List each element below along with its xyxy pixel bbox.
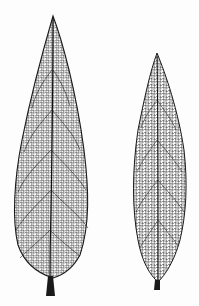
left-leaf-blade bbox=[15, 16, 88, 278]
left-leaf-petiole bbox=[46, 276, 55, 296]
right-leaf-petiole bbox=[154, 280, 160, 290]
left-leaf bbox=[15, 16, 88, 296]
right-leaf bbox=[134, 53, 187, 290]
leaves-drawing bbox=[0, 0, 199, 306]
right-leaf-blade bbox=[134, 53, 187, 282]
illustration bbox=[0, 0, 199, 306]
